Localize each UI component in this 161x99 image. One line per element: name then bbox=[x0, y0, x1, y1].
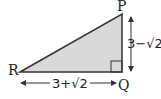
triangle-diagram: P Q R 3−√2 3+√2 bbox=[0, 0, 161, 99]
vertex-label-r: R bbox=[8, 62, 19, 78]
side-pq-length-label: 3−√2 bbox=[127, 36, 161, 51]
vertex-label-p: P bbox=[117, 0, 126, 14]
vertex-label-q: Q bbox=[118, 77, 129, 93]
side-rq-length-label: 3+√2 bbox=[52, 76, 88, 91]
triangle-pqr bbox=[20, 14, 122, 72]
